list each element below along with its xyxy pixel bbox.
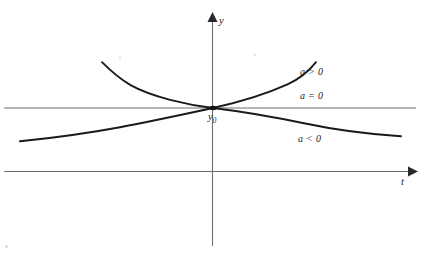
t-axis-label: t [401, 177, 404, 188]
label-a-greater-than-zero: a > 0 [300, 67, 323, 77]
y-axis-arrowhead-icon [208, 12, 218, 22]
initial-value-point [210, 106, 217, 110]
label-a-equals-zero: a = 0 [300, 91, 323, 101]
scan-speck [119, 57, 121, 59]
initial-value-subscript: 0 [213, 117, 217, 125]
plot-svg [0, 0, 425, 258]
scan-speck [254, 54, 256, 56]
scan-speck [5, 245, 8, 248]
y-axis-label: y [219, 16, 224, 27]
initial-value-label: y0 [208, 112, 216, 125]
figure-canvas: y t y0 a > 0 a = 0 a < 0 [0, 0, 425, 258]
label-a-less-than-zero: a < 0 [298, 134, 321, 144]
t-axis-arrowhead-icon [408, 167, 418, 177]
curve-a-less-than-zero [102, 62, 401, 136]
curve-a-greater-than-zero [20, 62, 316, 141]
